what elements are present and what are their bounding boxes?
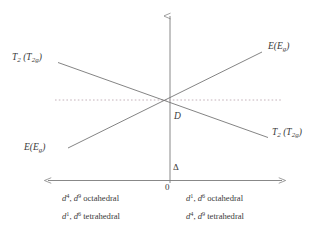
term-upper-left-paren-sub: 2g [32,56,39,64]
caption-right-top-geometry: octahedral [207,193,243,203]
caption-right-top-d1-sup: 1 [190,192,193,199]
orgel-diagram-figure: T2 (T2g) E(Eg) E(Eg) T2 (T2g) D Δ 0 d4, … [0,0,325,235]
caption-right-octahedral: d1, d6 octahedral [186,193,243,202]
caption-right-bottom-geometry: tetrahedral [207,211,244,221]
caption-right-bottom-d2-sup: 9 [202,210,205,217]
term-upper-left-main-sub: 2 [17,56,21,64]
caption-right-bottom-d1-sup: 4 [190,210,193,217]
caption-left-tetrahedral: d1, d6 tetrahedral [62,211,120,220]
caption-right-top-d2-sup: 6 [202,192,205,199]
caption-right-tetrahedral: d4, d9 tetrahedral [186,211,244,220]
term-label-upper-left: T2 (T2g) [12,53,42,64]
delta-axis-label: Δ [173,163,179,172]
origin-label: 0 [165,183,170,192]
center-d-term-label: D [174,112,181,122]
caption-left-bottom-d1-sup: 1 [66,210,69,217]
caption-left-top-geometry: octahedral [83,193,119,203]
caption-left-top-d1-sup: 4 [66,192,69,199]
term-lower-right-paren-sub: 2g [292,131,299,139]
caption-left-bottom-d2-sup: 6 [78,210,81,217]
term-lower-right-main-sub: 2 [277,131,281,139]
caption-left-bottom-geometry: tetrahedral [83,211,120,221]
term-label-lower-right: T2 (T2g) [272,128,302,139]
caption-left-octahedral: d4, d9 octahedral [62,193,119,202]
diagram-canvas [0,0,325,235]
caption-left-top-d2-sup: 9 [78,192,81,199]
term-label-upper-right: E(Eg) [268,42,289,53]
term-label-lower-left: E(Eg) [24,143,45,154]
